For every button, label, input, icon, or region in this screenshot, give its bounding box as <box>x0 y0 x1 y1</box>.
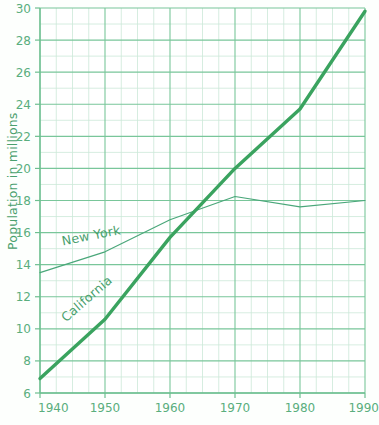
x-axis-tick-labels: 194019501960197019801990 <box>38 401 379 415</box>
y-tick-label: 24 <box>16 98 31 112</box>
y-tick-label: 6 <box>23 387 31 401</box>
x-tick-label: 1950 <box>90 401 121 415</box>
x-tick-label: 1990 <box>348 401 379 415</box>
y-tick-label: 10 <box>16 322 31 336</box>
y-tick-label: 8 <box>23 354 31 368</box>
x-tick-label: 1970 <box>220 401 251 415</box>
y-tick-label: 30 <box>16 2 31 16</box>
population-line-chart: 681012141618202224262830 194019501960197… <box>0 0 379 425</box>
y-tick-label: 28 <box>16 34 31 48</box>
chart-canvas: 681012141618202224262830 194019501960197… <box>0 0 379 425</box>
x-tick-label: 1960 <box>155 401 186 415</box>
y-tick-label: 12 <box>16 290 31 304</box>
x-tick-label: 1940 <box>38 401 69 415</box>
x-tick-label: 1980 <box>285 401 316 415</box>
y-tick-label: 14 <box>16 258 31 272</box>
y-axis-title: Population in millions <box>5 112 20 250</box>
y-tick-label: 26 <box>16 66 31 80</box>
x-axis-ticks <box>40 393 365 398</box>
y-axis-ticks <box>35 8 40 393</box>
